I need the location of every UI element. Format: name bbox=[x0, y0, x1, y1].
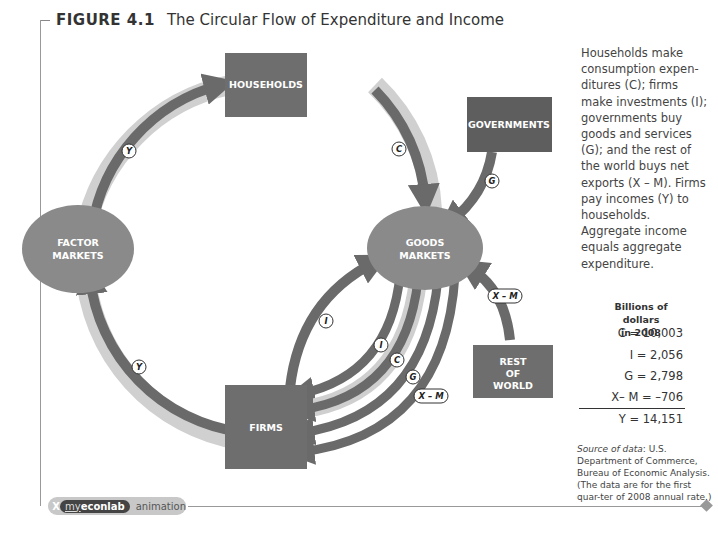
myeconlab-logo-icon: X bbox=[52, 501, 60, 512]
factor-markets-ellipse: FACTOR MARKETS bbox=[22, 205, 134, 293]
xm-arrow-rest-of-world bbox=[470, 268, 510, 340]
tag-i-return: I bbox=[374, 338, 388, 352]
rest-of-world-label-3: WORLD bbox=[493, 380, 533, 391]
rest-of-world-box: REST OF WORLD bbox=[473, 345, 553, 398]
tag-c-top: C bbox=[392, 142, 406, 156]
source-note: Source of data: U.S. Department of Comme… bbox=[577, 443, 717, 503]
rest-of-world-label-2: OF bbox=[506, 368, 521, 379]
svg-text:Y: Y bbox=[126, 146, 133, 156]
figure-description: Households make consumption expen-diture… bbox=[581, 45, 713, 272]
y-arrow-bottom bbox=[90, 278, 240, 432]
tag-g-return: G bbox=[406, 370, 420, 384]
data-row-c: C = 10,003 bbox=[618, 326, 683, 340]
goods-markets-label-1: GOODS bbox=[406, 237, 445, 248]
svg-text:C: C bbox=[394, 355, 401, 365]
svg-text:I: I bbox=[379, 340, 382, 350]
svg-text:G: G bbox=[410, 372, 417, 382]
data-row-i: I = 2,056 bbox=[630, 348, 683, 362]
data-table-heading-line1: Billions of dollars bbox=[596, 300, 686, 326]
data-row-g: G = 2,798 bbox=[624, 369, 683, 383]
svg-text:I: I bbox=[324, 316, 327, 326]
brand-my: my bbox=[65, 501, 81, 512]
g-arrow-governments bbox=[450, 152, 492, 222]
svg-text:G: G bbox=[489, 176, 496, 186]
tag-xm-rest-of-world: X – M bbox=[488, 289, 522, 303]
tag-g-governments: G bbox=[485, 174, 499, 188]
tag-y-top: Y bbox=[122, 144, 136, 158]
data-row-total: Y = 14,151 bbox=[619, 412, 683, 426]
myeconlab-animation-badge[interactable]: X myeconlab animation bbox=[48, 497, 186, 515]
households-box: HOUSEHOLDS bbox=[225, 53, 307, 117]
tag-y-bottom: Y bbox=[132, 360, 146, 374]
firms-box: FIRMS bbox=[225, 385, 307, 469]
rest-of-world-label-1: REST bbox=[499, 356, 527, 367]
goods-markets-label-2: MARKETS bbox=[399, 250, 450, 261]
source-prefix: Source of data bbox=[577, 444, 643, 454]
factor-markets-label-2: MARKETS bbox=[52, 250, 103, 261]
households-label: HOUSEHOLDS bbox=[229, 79, 303, 90]
data-row-xm: X– M = –706 bbox=[611, 390, 683, 404]
goods-markets-ellipse: GOODS MARKETS bbox=[367, 206, 483, 290]
governments-label: GOVERNMENTS bbox=[468, 119, 550, 130]
factor-markets-label-1: FACTOR bbox=[57, 237, 99, 248]
svg-text:X – M: X – M bbox=[491, 291, 518, 301]
tag-i-firms: I bbox=[319, 314, 333, 328]
tag-xm-return: X – M bbox=[414, 389, 448, 403]
myeconlab-brand: myeconlab bbox=[60, 500, 130, 513]
sum-divider bbox=[579, 408, 685, 409]
svg-text:X – M: X – M bbox=[417, 391, 444, 401]
brand-econlab: econlab bbox=[81, 501, 125, 512]
governments-box: GOVERNMENTS bbox=[467, 97, 552, 152]
tag-c-return: C bbox=[390, 353, 404, 367]
svg-text:Y: Y bbox=[136, 362, 143, 372]
animation-label: animation bbox=[136, 501, 186, 512]
svg-text:C: C bbox=[396, 144, 403, 154]
firms-label: FIRMS bbox=[249, 422, 283, 433]
